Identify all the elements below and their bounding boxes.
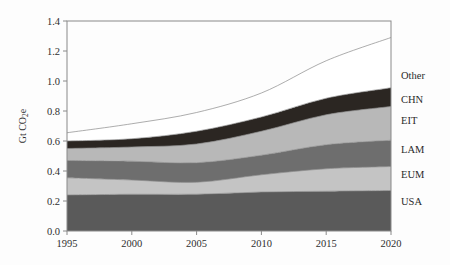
legend-item-chn: CHN — [401, 94, 424, 105]
area-band-usa — [67, 191, 391, 232]
y-tick-label: 1.2 — [47, 46, 60, 57]
y-tick-label: 0.0 — [47, 226, 60, 237]
x-tick-label: 2020 — [381, 238, 402, 249]
x-tick-label: 1995 — [57, 238, 78, 249]
legend-item-eit: EIT — [401, 115, 418, 126]
y-tick-label: 1.4 — [47, 16, 61, 27]
y-tick-label: 0.6 — [47, 136, 60, 147]
stacked-area-chart: 0.00.20.40.60.81.01.21.4 199520002005201… — [0, 0, 450, 265]
legend-item-other: Other — [401, 70, 425, 81]
x-tick-label: 2005 — [186, 238, 207, 249]
y-tick-label: 0.4 — [47, 166, 61, 177]
chart-page: 0.00.20.40.60.81.01.21.4 199520002005201… — [0, 0, 450, 265]
y-tick-label: 0.8 — [47, 106, 60, 117]
y-tick-label: 0.2 — [47, 196, 60, 207]
x-tick-label: 2010 — [251, 238, 272, 249]
x-tick-label: 2015 — [316, 238, 337, 249]
legend-item-usa: USA — [401, 196, 422, 207]
x-tick-label: 2000 — [121, 238, 142, 249]
legend-item-lam: LAM — [401, 144, 425, 155]
legend-item-eum: EUM — [401, 169, 425, 180]
y-tick-label: 1.0 — [47, 76, 60, 87]
